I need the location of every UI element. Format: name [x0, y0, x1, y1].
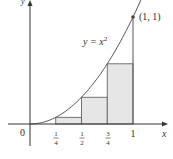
- x-axis-label: x: [161, 128, 167, 139]
- tick-one: 1: [131, 128, 136, 139]
- y-axis-arrow-icon: [28, 0, 33, 6]
- svg-text:1: 1: [80, 130, 84, 138]
- riemann-sum-chart: (1, 1) y = x2 0 x y 1 4 1 2 3 4 1: [0, 0, 173, 159]
- origin-label: 0: [20, 127, 25, 138]
- rectangles: [56, 64, 133, 124]
- y-axis-label: y: [20, 0, 25, 6]
- tick-three-quarters: 3 4: [106, 130, 111, 147]
- point-1-1: [131, 15, 135, 19]
- tick-quarter: 1 4: [54, 130, 59, 147]
- x-axis-arrow-icon: [162, 122, 168, 127]
- svg-text:4: 4: [106, 139, 110, 147]
- svg-text:2: 2: [80, 139, 84, 147]
- svg-text:3: 3: [106, 130, 110, 138]
- point-label: (1, 1): [139, 11, 161, 23]
- riemann-rectangle: [82, 97, 108, 124]
- svg-text:4: 4: [54, 139, 58, 147]
- riemann-rectangle: [107, 64, 133, 124]
- tick-half: 1 2: [80, 130, 85, 147]
- curve-label: y = x2: [82, 35, 108, 47]
- riemann-rectangle: [56, 117, 82, 124]
- svg-text:1: 1: [54, 130, 58, 138]
